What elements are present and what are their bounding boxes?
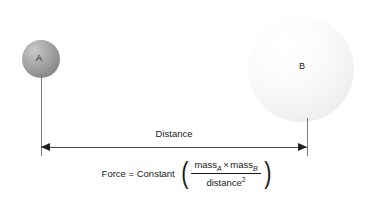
leader-line-sphere-b: [307, 118, 308, 156]
denominator-exponent: 2: [242, 176, 246, 183]
formula-denominator: distance2: [203, 174, 248, 188]
formula-numerator: massA×massB: [191, 160, 260, 173]
arrow-left-icon: [41, 143, 50, 151]
distance-label: Distance: [41, 129, 307, 139]
formula-left-hand-side: Force = Constant: [102, 169, 175, 180]
sphere-b-label: B: [299, 62, 305, 71]
sphere-a-label: A: [36, 54, 42, 63]
force-formula: Force = Constant ( massA×massB distance2…: [0, 160, 376, 188]
numerator-mass-a-term: mass: [194, 159, 217, 170]
numerator-mass-b-term: mass: [230, 159, 253, 170]
distance-dimension-line: [41, 147, 307, 148]
formula-close-paren: ): [264, 162, 271, 186]
gravitation-diagram: A B Distance Force = Constant ( massA×ma…: [0, 0, 376, 206]
arrow-right-icon: [298, 143, 307, 151]
formula-fraction: massA×massB distance2: [191, 160, 260, 188]
denominator-distance-term: distance: [206, 178, 241, 189]
formula-open-paren: (: [181, 162, 188, 186]
numerator-mass-b-subscript: B: [253, 165, 258, 172]
